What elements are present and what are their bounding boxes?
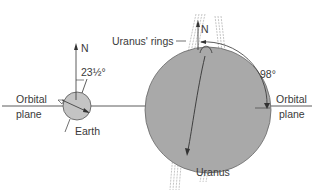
uranus-label: Uranus bbox=[196, 166, 230, 178]
left-orbital-label: Orbital bbox=[16, 93, 47, 105]
tilt-arc-arrow-icon bbox=[200, 40, 206, 44]
earth-north-label: N bbox=[81, 42, 89, 54]
earth-tilt-label: 23½° bbox=[81, 66, 106, 78]
earth-north-arrow-icon bbox=[74, 43, 78, 50]
uranus-tilt-label: 98° bbox=[260, 68, 276, 80]
right-orbital-label: Orbital bbox=[276, 93, 307, 105]
uranus-north-label: N bbox=[201, 23, 209, 35]
right-plane-label: plane bbox=[279, 108, 305, 120]
uranus-rings-label: Uranus' rings bbox=[112, 35, 174, 47]
diagram-canvas bbox=[0, 0, 322, 192]
earth-body bbox=[58, 43, 91, 132]
left-plane-label: plane bbox=[16, 108, 42, 120]
earth-label: Earth bbox=[75, 125, 100, 137]
uranus-north-arrow-icon bbox=[196, 20, 200, 27]
